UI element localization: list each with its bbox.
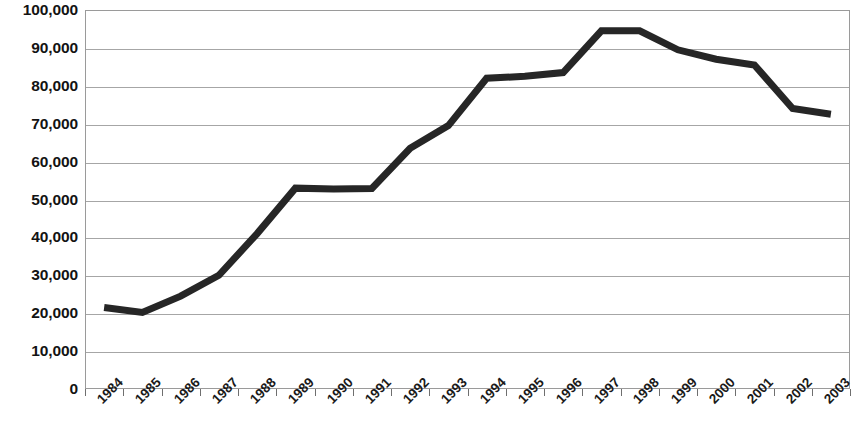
line-chart: 010,00020,00030,00040,00050,00060,00070,…	[0, 0, 861, 430]
x-tick	[200, 389, 201, 396]
x-tick	[315, 389, 316, 396]
x-tick	[506, 389, 507, 396]
y-tick-label: 80,000	[0, 77, 78, 95]
x-tick	[544, 389, 545, 396]
y-tick-label: 60,000	[0, 153, 78, 171]
data-series-line	[85, 10, 850, 389]
x-tick	[735, 389, 736, 396]
x-tick	[276, 389, 277, 396]
y-tick-label: 40,000	[0, 228, 78, 246]
y-tick-label: 70,000	[0, 115, 78, 133]
x-axis: 1984198519861987198819891990199119921993…	[85, 396, 850, 430]
x-tick	[582, 389, 583, 396]
x-tick	[238, 389, 239, 396]
x-tick	[697, 389, 698, 396]
x-tick	[429, 389, 430, 396]
x-tick	[353, 389, 354, 396]
x-tick	[850, 389, 851, 396]
x-axis-ticks	[85, 389, 850, 396]
x-tick	[659, 389, 660, 396]
y-tick-label: 10,000	[0, 342, 78, 360]
x-tick	[85, 389, 86, 396]
y-tick-label: 100,000	[0, 1, 78, 19]
y-tick-label: 90,000	[0, 39, 78, 57]
x-tick	[162, 389, 163, 396]
x-tick	[391, 389, 392, 396]
y-axis: 010,00020,00030,00040,00050,00060,00070,…	[0, 0, 78, 400]
x-tick	[774, 389, 775, 396]
series-polyline	[104, 31, 831, 313]
y-tick-label: 0	[0, 380, 78, 398]
x-tick	[468, 389, 469, 396]
y-tick-label: 20,000	[0, 304, 78, 322]
y-tick-label: 50,000	[0, 191, 78, 209]
x-tick	[621, 389, 622, 396]
x-tick	[123, 389, 124, 396]
x-tick	[812, 389, 813, 396]
y-tick-label: 30,000	[0, 266, 78, 284]
